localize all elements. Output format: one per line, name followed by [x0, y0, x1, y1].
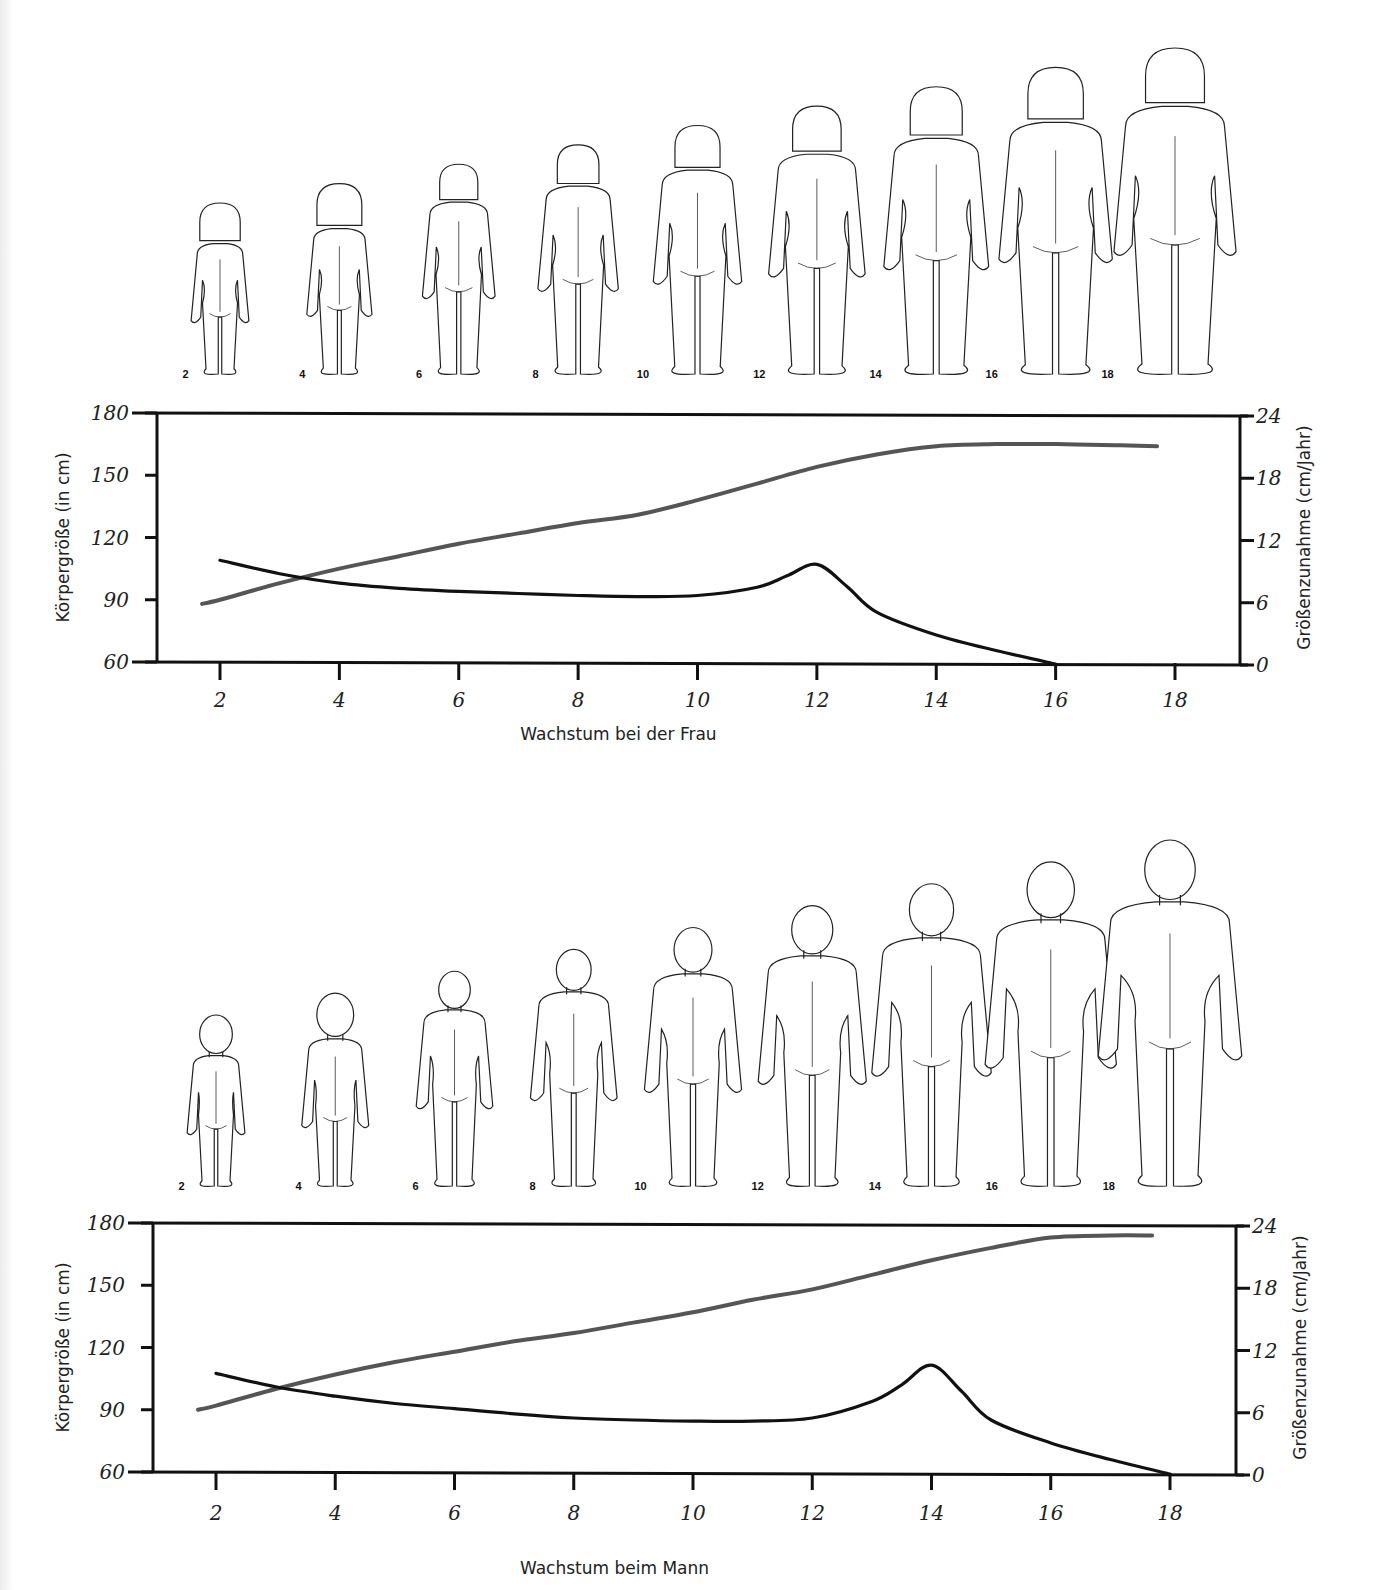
head-short-hair — [792, 906, 833, 954]
y2-axis-title: Größenzunahme (cm/Jahr) — [1294, 425, 1314, 649]
male-figure-row: 24681012141618 — [178, 840, 1241, 1192]
x-axis — [128, 1472, 1244, 1475]
figure-age-label: 12 — [752, 1180, 764, 1192]
head-bob-hair — [675, 126, 720, 168]
figure-age-2: 2 — [178, 1015, 245, 1192]
figure-age-label: 14 — [869, 368, 882, 380]
figure-age-16: 16 — [986, 67, 1113, 380]
y-axis-title: Körpergröße (in cm) — [53, 1262, 73, 1432]
figure-age-14: 14 — [869, 884, 992, 1192]
y-tick-label: 150 — [87, 1273, 125, 1297]
x-axis-title: Wachstum beim Mann — [520, 1558, 709, 1578]
y2-tick-label: 12 — [1256, 529, 1281, 553]
y2-tick-label: 18 — [1252, 1276, 1277, 1300]
figure-age-label: 2 — [182, 368, 188, 380]
y2-tick-label: 0 — [1252, 1463, 1265, 1487]
y-tick-label: 90 — [104, 588, 130, 612]
figure-age-label: 10 — [637, 368, 649, 380]
y2-tick-label: 12 — [1252, 1339, 1277, 1363]
x-tick-label: 18 — [1162, 688, 1187, 712]
head-short-hair — [200, 1015, 233, 1054]
x-tick-label: 8 — [572, 688, 585, 712]
x-tick-label: 4 — [332, 688, 346, 712]
figure-age-label: 8 — [530, 1180, 536, 1192]
x-tick-label: 14 — [919, 1501, 944, 1525]
y2-tick-label: 6 — [1252, 1401, 1265, 1425]
figure-age-label: 8 — [533, 368, 539, 380]
height-curve — [198, 1235, 1152, 1409]
figure-age-14: 14 — [869, 87, 988, 380]
figure-age-10: 10 — [635, 928, 742, 1193]
figure-age-label: 10 — [635, 1180, 647, 1192]
figure-age-8: 8 — [533, 145, 619, 380]
head-bob-hair — [557, 145, 599, 184]
female-growth-chart: 60901201501800612182424681012141618Körpe… — [53, 401, 1314, 744]
head-bob-hair — [440, 164, 478, 199]
figure-age-6: 6 — [413, 971, 493, 1192]
x-tick-label: 6 — [452, 688, 465, 712]
head-short-hair — [674, 928, 712, 973]
x-tick-label: 10 — [680, 1501, 706, 1525]
y-tick-label: 60 — [104, 650, 130, 674]
x-tick-label: 8 — [567, 1501, 580, 1525]
head-bob-hair — [317, 184, 362, 226]
y-tick-label: 60 — [100, 1460, 126, 1484]
y2-tick-label: 6 — [1256, 591, 1269, 615]
x-tick-label: 14 — [924, 688, 949, 712]
head-short-hair — [439, 971, 471, 1008]
x-tick-label: 12 — [800, 1501, 825, 1525]
head-short-hair — [1027, 862, 1074, 918]
figure-age-18: 18 — [1098, 840, 1242, 1192]
velocity-curve — [220, 560, 1056, 664]
x-tick-label: 12 — [804, 688, 829, 712]
head-bob-hair — [793, 106, 842, 151]
figure-age-label: 4 — [299, 368, 306, 380]
y2-axis-title: Größenzunahme (cm/Jahr) — [1290, 1235, 1310, 1459]
y-tick-label: 150 — [91, 463, 129, 487]
figure-age-label: 2 — [178, 1180, 184, 1192]
figure-age-10: 10 — [637, 126, 742, 381]
head-short-hair — [556, 949, 591, 990]
head-bob-hair — [1146, 48, 1205, 103]
x-tick-label: 16 — [1043, 688, 1069, 712]
female-figure-row: 24681012141618 — [182, 48, 1236, 380]
figure-age-label: 6 — [413, 1180, 419, 1192]
figure-age-label: 14 — [869, 1180, 882, 1192]
x-axis — [132, 662, 1248, 665]
figure-age-label: 6 — [416, 368, 422, 380]
x-tick-label: 18 — [1157, 1501, 1182, 1525]
height-curve — [202, 444, 1157, 604]
growth-figure: 24681012141618 6090120150180061218242468… — [0, 0, 1381, 1590]
figure-age-6: 6 — [416, 164, 495, 380]
head-short-hair — [909, 884, 953, 936]
y-tick-label: 120 — [91, 526, 129, 550]
figure-age-18: 18 — [1102, 48, 1237, 380]
y2-tick-label: 0 — [1256, 653, 1269, 677]
x-tick-label: 2 — [209, 1501, 223, 1525]
x-tick-label: 2 — [213, 688, 227, 712]
y-tick-label: 180 — [91, 401, 129, 425]
figure-age-8: 8 — [530, 949, 618, 1192]
x-axis-title: Wachstum bei der Frau — [520, 724, 716, 744]
y-tick-label: 120 — [87, 1336, 125, 1360]
figure-age-label: 18 — [1102, 368, 1114, 380]
plot-top-border — [132, 413, 1248, 416]
figure-age-12: 12 — [753, 106, 865, 380]
x-tick-label: 10 — [685, 688, 711, 712]
figure-age-label: 4 — [295, 1180, 302, 1192]
head-bob-hair — [1028, 67, 1083, 118]
x-tick-label: 4 — [328, 1501, 342, 1525]
figure-age-label: 16 — [986, 1180, 998, 1192]
figure-age-4: 4 — [299, 184, 372, 380]
head-short-hair — [317, 993, 354, 1036]
male-growth-chart: 60901201501800612182424681012141618Körpe… — [53, 1211, 1310, 1578]
figure-age-label: 18 — [1103, 1180, 1115, 1192]
plot-top-border — [128, 1223, 1244, 1226]
figure-age-4: 4 — [295, 993, 368, 1192]
x-tick-label: 16 — [1038, 1501, 1064, 1525]
head-bob-hair — [910, 87, 962, 135]
y2-tick-label: 18 — [1256, 466, 1281, 490]
x-tick-label: 6 — [448, 1501, 461, 1525]
y-tick-label: 90 — [100, 1398, 126, 1422]
head-short-hair — [1145, 840, 1196, 900]
